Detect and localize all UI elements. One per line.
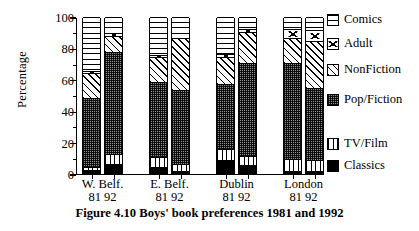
bar-segment [239, 30, 256, 33]
bar-segment [150, 17, 167, 56]
legend-swatch-tv-film [327, 138, 339, 150]
legend-label: Classics [344, 159, 385, 172]
bar-segment [83, 17, 100, 72]
x-tick [159, 174, 160, 179]
bar-segment [172, 17, 189, 39]
bar-segment [83, 74, 100, 99]
x-axis-labels: W. Belf.81 92E. Belf.81 92Dublin81 92Lon… [0, 176, 419, 204]
bar-segment [150, 158, 167, 167]
bar-segment [105, 165, 122, 174]
y-tick-minor [73, 159, 77, 160]
y-tick-minor [73, 33, 77, 34]
legend-label: TV/Film [344, 137, 388, 150]
bar-segment [150, 56, 167, 58]
bar-segment [83, 72, 100, 74]
bar-segment [306, 42, 323, 89]
stacked-bar [238, 18, 257, 175]
x-tick [248, 174, 249, 179]
y-tick-major [70, 143, 76, 144]
bar-segment [239, 166, 256, 174]
y-tick-major [70, 17, 76, 18]
stacked-bar [305, 18, 324, 175]
bar-segment [239, 33, 256, 64]
bar-segment [105, 53, 122, 155]
y-tick-major [70, 174, 76, 175]
bar-segment [83, 99, 100, 168]
bar-segment [105, 155, 122, 164]
y-tick-minor [73, 65, 77, 66]
bar-segment [105, 37, 122, 53]
stacked-bar [216, 18, 235, 175]
y-tick-major [70, 80, 76, 81]
y-tick-minor [73, 96, 77, 97]
legend-swatch-classics [327, 160, 339, 172]
stacked-bar [149, 18, 168, 175]
figure-caption: Figure 4.10 Boys' book preferences 1981 … [0, 206, 419, 221]
y-tick-major [70, 49, 76, 50]
x-tick [181, 174, 182, 179]
bar-segment [150, 83, 167, 158]
bar-segment [284, 17, 301, 30]
bar-segment [306, 89, 323, 161]
legend-label: Pop/Fiction [344, 93, 402, 106]
bar-segment [239, 17, 256, 30]
bar-segment [217, 85, 234, 151]
legend-swatch-pop-fiction [327, 94, 339, 106]
bar-segment [284, 30, 301, 39]
x-group-years: 81 92 [264, 190, 344, 205]
y-tick-major [70, 112, 76, 113]
x-tick [92, 174, 93, 179]
bar-segment [306, 17, 323, 31]
x-tick [226, 174, 227, 179]
bar-segment [150, 58, 167, 83]
plot-area [76, 18, 324, 175]
x-tick [293, 174, 294, 179]
bar-segment [83, 168, 100, 171]
bar-segment [284, 160, 301, 173]
legend-label: NonFiction [344, 63, 401, 76]
stacked-bar [104, 18, 123, 175]
bar-segment [284, 64, 301, 160]
legend-swatch-adult [327, 38, 339, 50]
y-axis-title: Percentage [15, 25, 30, 135]
bar-segment [306, 31, 323, 42]
chart-figure: Percentage 020406080100 W. Belf.81 92E. … [0, 0, 419, 231]
legend-swatch-comics [327, 14, 339, 26]
bar-segment [306, 161, 323, 172]
y-tick-minor [73, 127, 77, 128]
x-tick [114, 174, 115, 179]
bar-segment [172, 91, 189, 165]
legend-label: Adult [344, 37, 372, 50]
chart-legend: ComicsAdultNonFictionPop/FictionTV/FilmC… [327, 14, 419, 179]
bar-segment [105, 34, 122, 37]
legend-label: Comics [344, 13, 382, 26]
bar-segment [239, 157, 256, 166]
y-axis-tick-labels: 020406080100 [38, 10, 74, 182]
bar-segment [284, 39, 301, 64]
bar-segment [217, 58, 234, 85]
bar-segment [239, 64, 256, 157]
bar-segment [217, 17, 234, 55]
x-tick [315, 174, 316, 179]
stacked-bar [283, 18, 302, 175]
bar-segment [217, 55, 234, 58]
bar-segment [217, 150, 234, 161]
stacked-bar [171, 18, 190, 175]
bar-segment [105, 17, 122, 34]
bar-segment [172, 165, 189, 173]
legend-swatch-nonfiction [327, 64, 339, 76]
bar-segment [172, 39, 189, 91]
bar-segment [217, 161, 234, 174]
stacked-bar [82, 18, 101, 175]
